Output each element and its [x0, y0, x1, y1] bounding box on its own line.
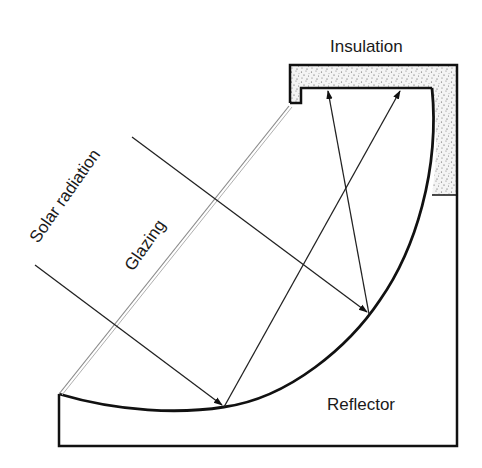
- insulation-notch: [290, 88, 432, 103]
- reflector-curve: [59, 88, 433, 411]
- glazing-inner: [62, 107, 292, 395]
- solar-ray-lower: [35, 265, 222, 405]
- label-reflector: Reflector: [327, 395, 395, 414]
- collector-diagram: Insulation Solar radiation Glazing Refle…: [0, 0, 482, 468]
- solar-ray-upper: [132, 137, 367, 312]
- insulation-block: [290, 65, 457, 195]
- housing-outline: [59, 65, 457, 446]
- label-insulation: Insulation: [330, 37, 403, 56]
- reflected-ray-2: [328, 91, 369, 314]
- reflected-ray-1: [224, 91, 400, 407]
- label-solar-radiation: Solar radiation: [26, 146, 104, 247]
